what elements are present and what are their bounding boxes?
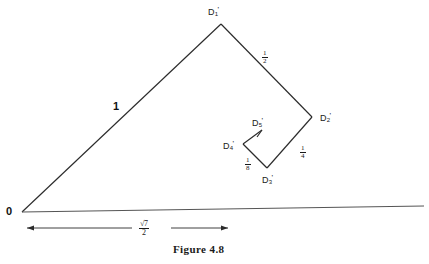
vertex-label-d2: D2': [320, 112, 331, 123]
figure-caption: Figure 4.8: [173, 243, 224, 255]
edge-label-hypotenuse: 1: [113, 101, 119, 112]
edge-label-quarter-numerator: 1: [300, 145, 306, 152]
edge-label-eighth-numerator: 1: [245, 157, 251, 164]
dimension-arrow-right: [221, 226, 228, 231]
vertex-d4-base: D: [223, 141, 230, 151]
vertex-d5-prime: ': [261, 116, 263, 125]
vertex-label-d4: D4': [223, 140, 234, 151]
vertex-d1-base: D: [208, 7, 215, 17]
vertex-label-d3: D3': [262, 174, 273, 185]
edge-label-quarter-denominator: 4: [300, 152, 306, 160]
figure-container: 0 1 D1' D2' D3' D4' D5' 1 2 1 4 1 8 √7 2…: [0, 0, 429, 264]
edge-label-half: 1 2: [262, 50, 268, 65]
vertex-d3-prime: ': [271, 173, 273, 182]
baseline-axis: [22, 206, 424, 212]
vertex-d4-prime: ': [232, 139, 234, 148]
edge-label-eighth: 1 8: [245, 157, 251, 172]
vertex-label-d5: D5': [252, 117, 263, 128]
dimension-arrow-left: [27, 226, 34, 231]
dimension-label-denominator: 2: [139, 228, 149, 237]
origin-label: 0: [6, 206, 12, 217]
vertex-d2-base: D: [320, 113, 327, 123]
vertex-d2-prime: ': [329, 111, 331, 120]
edge-label-half-denominator: 2: [262, 57, 268, 65]
edge-d1-to-d2: [221, 24, 312, 117]
figure-drawing: [0, 0, 429, 264]
edge-label-eighth-denominator: 8: [245, 164, 251, 172]
vertex-d5-base: D: [252, 118, 259, 128]
edge-d4-to-d5: [243, 130, 262, 144]
edge-label-half-numerator: 1: [262, 50, 268, 57]
vertex-d1-prime: ': [217, 5, 219, 14]
edge-d2-to-d3: [267, 117, 312, 168]
edge-origin-to-d1: [22, 24, 221, 212]
vertex-d3-base: D: [262, 175, 269, 185]
dimension-label: √7 2: [139, 220, 149, 237]
vertex-label-d1: D1': [208, 6, 219, 17]
dimension-label-numerator: √7: [139, 220, 149, 228]
edge-label-quarter: 1 4: [300, 145, 306, 160]
